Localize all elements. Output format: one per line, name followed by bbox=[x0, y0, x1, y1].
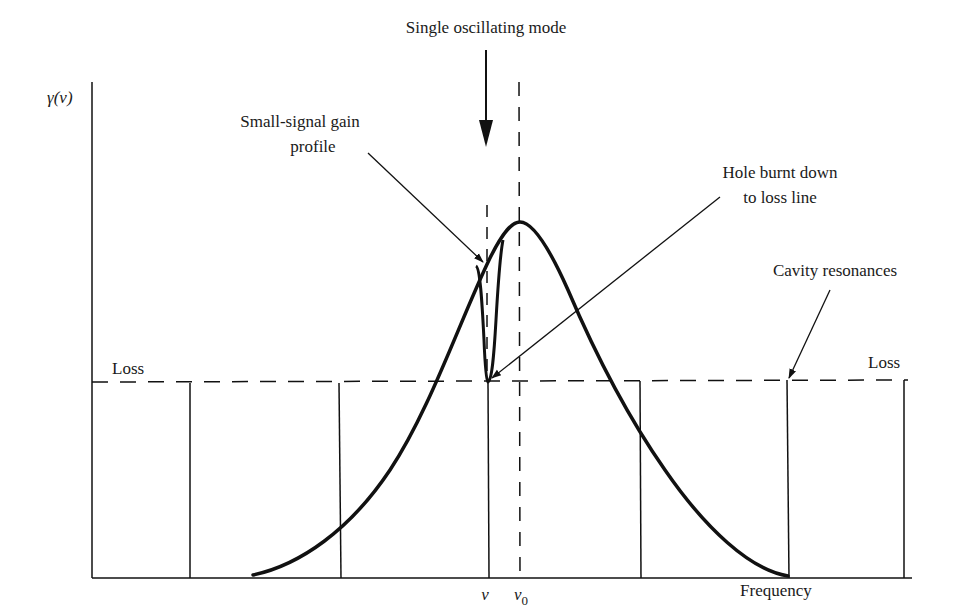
gain-profile-label-line1: Small-signal gain bbox=[240, 112, 360, 131]
nu-label: ν bbox=[481, 585, 489, 604]
cavity-resonances-label: Cavity resonances bbox=[773, 261, 897, 280]
loss-label-left: Loss bbox=[112, 359, 144, 378]
cavity-resonance-line bbox=[787, 380, 789, 578]
cavity-resonance-line bbox=[339, 383, 341, 578]
y-axis-label: γ(ν) bbox=[47, 88, 73, 107]
hole-label-line1: Hole burnt down bbox=[722, 163, 838, 182]
loss-label-right: Loss bbox=[868, 353, 900, 372]
gain-profile-pointer bbox=[368, 153, 483, 262]
arrow-head-icon bbox=[479, 120, 493, 147]
title-label: Single oscillating mode bbox=[406, 18, 567, 37]
cavity-resonances bbox=[190, 380, 904, 578]
gain-profile-label-line2: profile bbox=[290, 137, 335, 156]
nu0-subscript: 0 bbox=[522, 593, 529, 608]
nu0-label: ν0 bbox=[514, 585, 528, 608]
gain-profile-curve bbox=[253, 222, 788, 576]
cavity-resonance-line bbox=[640, 381, 641, 578]
nu0-dashed-line bbox=[519, 82, 520, 578]
cavity-pointer bbox=[789, 290, 830, 378]
cavity-resonance-line bbox=[488, 382, 489, 578]
loss-line bbox=[92, 380, 908, 382]
laser-gain-diagram: Single oscillating mode γ(ν) Small-signa… bbox=[0, 0, 954, 615]
hole-label-line2: to loss line bbox=[743, 188, 817, 207]
frequency-label: Frequency bbox=[740, 581, 812, 600]
